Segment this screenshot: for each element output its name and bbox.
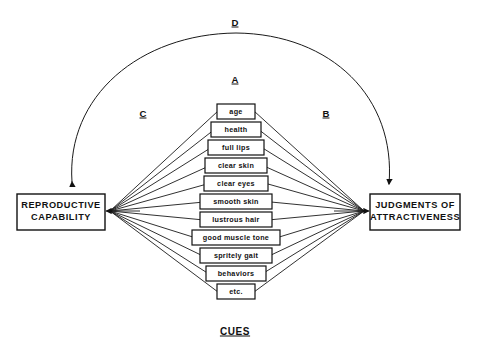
path-label-d: D [232,17,239,28]
judgments-line2: ATTRACTIVENESS [370,212,460,222]
cue-label-good-muscle-tone: good muscle tone [203,234,269,241]
judgments-of-attractiveness-label: JUDGMENTS OF ATTRACTIVENESS [370,200,460,224]
cue-label-clear-eyes: clear eyes [217,180,255,187]
judgments-line1: JUDGMENTS OF [375,200,455,210]
path-label-c: C [140,108,147,119]
cue-label-health: health [225,126,248,133]
reproductive-capability-line2: CAPABILITY [31,212,91,222]
cue-label-behaviors: behaviors [218,270,255,277]
cue-label-lustrous-hair: lustrous hair [212,216,259,223]
lens-model-diagram: REPRODUCTIVE CAPABILITY JUDGMENTS OF ATT… [0,0,477,355]
cue-label-spritely-gait: spritely gait [214,252,258,259]
path-label-a: A [232,74,239,85]
cue-label-age: age [229,108,242,115]
cue-label-smooth-skin: smooth skin [213,198,259,205]
cues-caption: CUES [220,326,250,337]
path-label-b: B [323,108,330,119]
cue-label-etc: etc. [229,288,243,295]
cue-label-full-lips: full lips [222,144,250,151]
cue-label-clear-skin: clear skin [218,162,254,169]
connector-layer [0,0,477,355]
reproductive-capability-line1: REPRODUCTIVE [21,200,101,210]
reproductive-capability-label: REPRODUCTIVE CAPABILITY [21,200,101,224]
